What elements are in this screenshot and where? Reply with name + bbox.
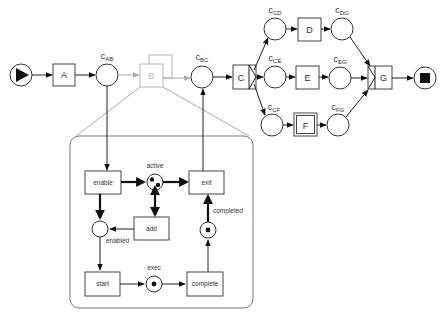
place-cCF[interactable]: cCF [261, 102, 283, 136]
transition-G[interactable]: G [368, 66, 392, 89]
start-label: start [96, 280, 109, 287]
place-cFG-label: cFG [332, 102, 345, 113]
subnet-place-completed[interactable]: completed [200, 207, 243, 238]
subnet-transition-start[interactable]: start [85, 272, 120, 296]
transition-G-label: G [380, 73, 387, 83]
transition-D[interactable]: D [298, 18, 321, 41]
start-place[interactable] [10, 64, 32, 86]
transition-C[interactable]: C [233, 65, 256, 89]
funnel-left [76, 87, 140, 136]
arc-C-cCD [254, 38, 268, 70]
place-cAB[interactable]: cAB [96, 51, 118, 86]
transition-E-label: E [304, 73, 310, 83]
stop-square-icon [420, 73, 430, 83]
transition-F-label: F [303, 121, 309, 131]
place-cCE-label: cCE [269, 53, 282, 64]
place-cFG[interactable]: cFG [327, 102, 349, 136]
active-label: active [147, 162, 164, 169]
transition-D-label: D [306, 25, 313, 35]
place-cDG[interactable]: cDG [331, 5, 353, 40]
place-cEG-label: cEG [333, 54, 347, 65]
transition-B[interactable]: B [140, 55, 172, 87]
subnet-place-enabled[interactable]: enabled [92, 221, 130, 244]
subnet-transition-complete[interactable]: complete [187, 272, 223, 296]
place-cCD[interactable]: cCD [264, 5, 286, 40]
transition-E[interactable]: E [296, 66, 319, 89]
add-label: add [146, 225, 157, 232]
funnel-right [163, 87, 249, 136]
place-cBC-label: cBC [196, 52, 210, 63]
place-cDG-label: cDG [335, 5, 349, 16]
transition-F[interactable]: F [294, 113, 317, 136]
place-cCF-label: cCF [268, 102, 281, 113]
enable-label: enable [93, 179, 113, 186]
subnet-transition-add[interactable]: add [134, 217, 169, 240]
transition-A[interactable]: A [53, 64, 75, 86]
place-cEG[interactable]: cEG [329, 54, 351, 89]
place-cCE[interactable]: cCE [264, 53, 286, 88]
complete-label: complete [192, 280, 219, 288]
subnet-place-exec[interactable]: exec [146, 264, 162, 292]
exit-label: exit [201, 179, 211, 186]
place-cAB-label: cAB [101, 51, 114, 62]
token [206, 228, 211, 233]
place-cBC[interactable]: cBC [191, 52, 213, 88]
transition-C-label: C [238, 73, 245, 83]
end-place[interactable] [414, 67, 436, 89]
subnet-transition-exit[interactable]: exit [189, 171, 224, 194]
arc-cFG-G [346, 90, 368, 117]
enabled-label: enabled [106, 237, 130, 244]
token [152, 282, 157, 287]
subnet-place-active[interactable]: active [147, 162, 164, 190]
arc-cDG-G [350, 37, 370, 66]
exec-label: exec [147, 264, 161, 271]
arc-C-cCF [254, 84, 265, 115]
token [156, 183, 160, 187]
transition-B-label: B [148, 71, 154, 81]
transition-A-label: A [61, 70, 67, 80]
subnet-transition-enable[interactable]: enable [85, 171, 121, 194]
token [150, 177, 154, 181]
place-cCD-label: cCD [268, 5, 282, 16]
completed-label: completed [213, 207, 243, 215]
workflow-net-diagram: A cAB B cBC C cCD D cDG [0, 0, 444, 319]
